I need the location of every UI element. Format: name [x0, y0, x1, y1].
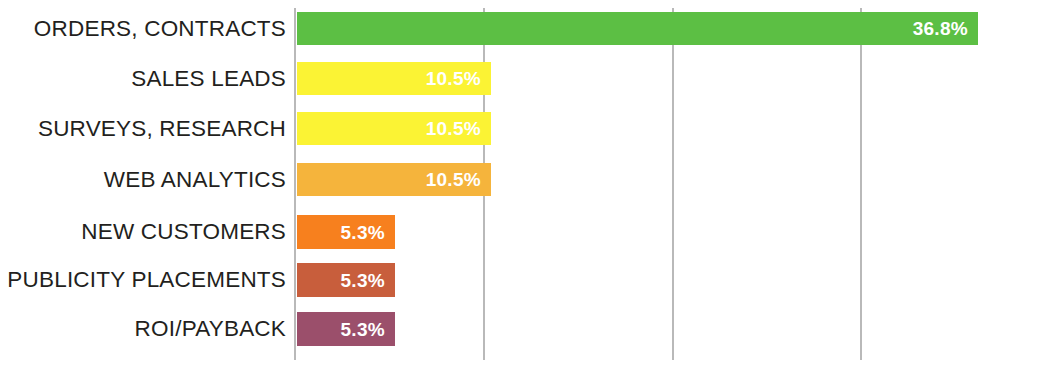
- bar-row: WEB ANALYTICS10.5%: [0, 163, 1044, 196]
- bar-container: 36.8%: [297, 12, 978, 45]
- category-label: NEW CUSTOMERS: [0, 221, 286, 244]
- bar-row: SALES LEADS10.5%: [0, 62, 1044, 95]
- bar-row: NEW CUSTOMERS5.3%: [0, 215, 1044, 249]
- bar-row: SURVEYS, RESEARCH10.5%: [0, 112, 1044, 145]
- bar-container: 5.3%: [297, 312, 395, 346]
- category-label: ROI/PAYBACK: [0, 318, 286, 341]
- bar-value-label: 10.5%: [426, 170, 491, 189]
- bar-value-label: 36.8%: [913, 19, 978, 38]
- bar-chart: ORDERS, CONTRACTS36.8%SALES LEADS10.5%SU…: [0, 0, 1044, 366]
- bar-value-label: 5.3%: [340, 320, 395, 339]
- category-label: PUBLICITY PLACEMENTS: [0, 269, 286, 292]
- bar-value-label: 5.3%: [340, 271, 395, 290]
- bar-value-label: 10.5%: [426, 119, 491, 138]
- category-label: WEB ANALYTICS: [0, 169, 286, 192]
- category-label: SALES LEADS: [0, 68, 286, 91]
- bar[interactable]: 10.5%: [297, 112, 491, 145]
- bar[interactable]: 10.5%: [297, 62, 491, 95]
- bar-container: 10.5%: [297, 62, 491, 95]
- bar[interactable]: 5.3%: [297, 312, 395, 346]
- bar-container: 10.5%: [297, 112, 491, 145]
- bar-container: 5.3%: [297, 215, 395, 249]
- bar-row: ORDERS, CONTRACTS36.8%: [0, 12, 1044, 45]
- bar-container: 10.5%: [297, 163, 491, 196]
- category-label: ORDERS, CONTRACTS: [0, 18, 286, 41]
- bar-row: ROI/PAYBACK5.3%: [0, 312, 1044, 346]
- category-label: SURVEYS, RESEARCH: [0, 118, 286, 141]
- bar-container: 5.3%: [297, 263, 395, 297]
- bar[interactable]: 10.5%: [297, 163, 491, 196]
- bar-value-label: 5.3%: [340, 223, 395, 242]
- bar-value-label: 10.5%: [426, 69, 491, 88]
- bar-row: PUBLICITY PLACEMENTS5.3%: [0, 263, 1044, 297]
- bar[interactable]: 5.3%: [297, 263, 395, 297]
- bar[interactable]: 36.8%: [297, 12, 978, 45]
- bar[interactable]: 5.3%: [297, 215, 395, 249]
